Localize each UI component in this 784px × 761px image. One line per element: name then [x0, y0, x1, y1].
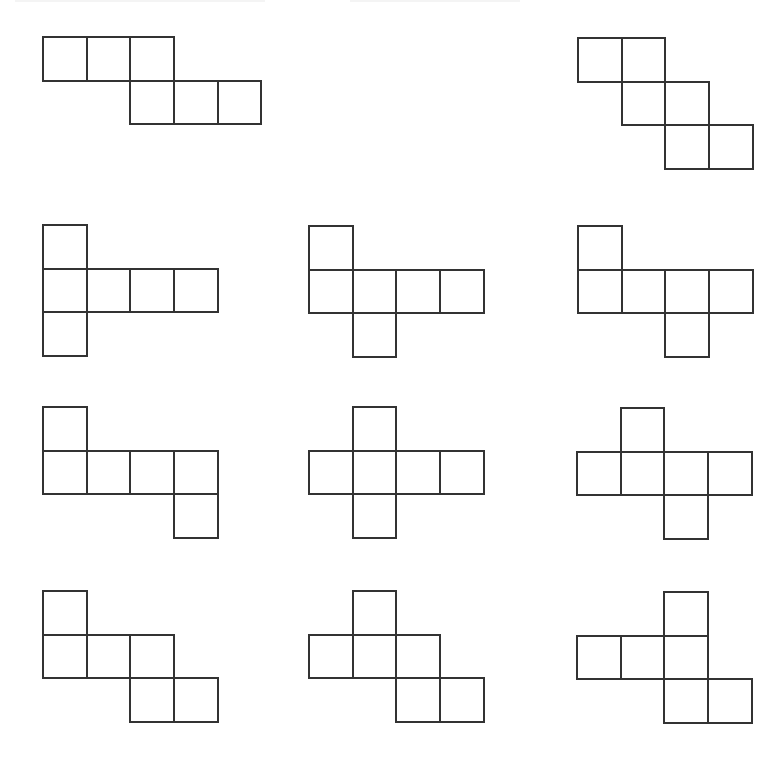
net-square: [42, 634, 88, 680]
net-square: [620, 407, 666, 453]
net-square: [621, 37, 667, 83]
net-square: [352, 493, 398, 539]
net-square: [352, 590, 398, 636]
net-square: [86, 634, 132, 680]
net-square: [395, 634, 441, 680]
net-square: [308, 269, 354, 315]
net-square: [439, 450, 485, 496]
net-square: [664, 124, 710, 170]
net-square: [707, 451, 753, 497]
net-square: [707, 678, 753, 724]
net-square: [129, 268, 175, 314]
cropped-text-remnant: [15, 0, 265, 2]
net-square: [173, 80, 219, 126]
net-square: [42, 268, 88, 314]
net-square: [129, 450, 175, 496]
net-square: [439, 269, 485, 315]
net-square: [577, 269, 623, 315]
net-square: [173, 268, 219, 314]
net-square: [664, 269, 710, 315]
net-square: [395, 450, 441, 496]
net-square: [663, 635, 709, 681]
net-square: [621, 81, 667, 127]
net-square: [173, 493, 219, 539]
net-square: [86, 450, 132, 496]
net-square: [664, 81, 710, 127]
net-square: [42, 311, 88, 357]
net-square: [129, 80, 175, 126]
net-square: [439, 677, 485, 723]
net-square: [663, 591, 709, 637]
net-square: [352, 406, 398, 452]
net-square: [42, 590, 88, 636]
net-square: [86, 36, 132, 82]
net-square: [129, 634, 175, 680]
net-square: [577, 225, 623, 271]
net-square: [42, 224, 88, 270]
net-square: [395, 677, 441, 723]
net-square: [663, 451, 709, 497]
net-square: [663, 494, 709, 540]
net-square: [395, 269, 441, 315]
net-square: [173, 450, 219, 496]
net-square: [620, 451, 666, 497]
cropped-text-remnant: [350, 0, 520, 2]
net-square: [663, 678, 709, 724]
net-square: [708, 124, 754, 170]
net-square: [129, 36, 175, 82]
net-square: [664, 312, 710, 358]
net-square: [352, 450, 398, 496]
net-square: [173, 677, 219, 723]
net-square: [42, 450, 88, 496]
net-square: [352, 269, 398, 315]
net-square: [352, 312, 398, 358]
net-square: [217, 80, 263, 126]
net-square: [308, 450, 354, 496]
net-square: [308, 634, 354, 680]
net-square: [308, 225, 354, 271]
cube-nets-diagram: [0, 0, 784, 761]
net-square: [576, 635, 622, 681]
net-square: [129, 677, 175, 723]
net-square: [86, 268, 132, 314]
net-square: [620, 635, 666, 681]
net-square: [42, 406, 88, 452]
net-square: [708, 269, 754, 315]
net-square: [42, 36, 88, 82]
net-square: [577, 37, 623, 83]
net-square: [576, 451, 622, 497]
net-square: [621, 269, 667, 315]
net-square: [352, 634, 398, 680]
